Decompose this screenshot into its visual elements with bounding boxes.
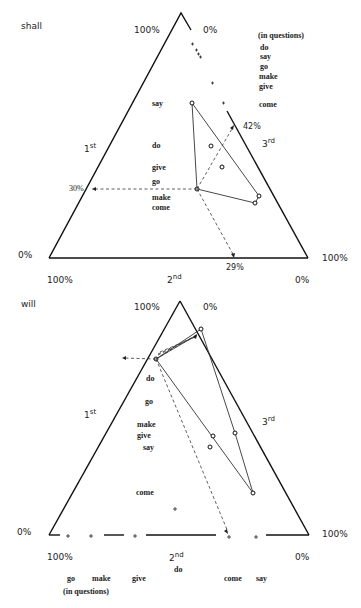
axis-2nd-label: 2nd — [167, 273, 182, 285]
shall-diagram: shall 100% 0% (in questions) do say go m… — [18, 13, 348, 285]
question-word: go — [67, 574, 75, 583]
marker-1st: 30% — [69, 184, 84, 193]
right-0-label: 0% — [295, 552, 310, 562]
axis-3rd-label: 3rd — [262, 137, 275, 149]
question-word: do — [174, 565, 182, 574]
arrow-2nd — [224, 529, 228, 534]
question-word: say — [260, 52, 271, 61]
inside-word: go — [152, 177, 160, 186]
triangle-right-edge — [180, 301, 309, 535]
diagram-title-shall: shall — [21, 21, 42, 31]
inside-word: come — [136, 488, 154, 497]
left-100-label: 100% — [47, 275, 73, 285]
ternary-diagrams: shall 100% 0% (in questions) do say go m… — [0, 0, 361, 608]
question-word: make — [92, 574, 111, 583]
left-100-label: 100% — [47, 552, 73, 562]
marker-3rd: 42% — [243, 122, 261, 131]
arrow-1st — [122, 356, 126, 360]
inside-word: make — [152, 193, 171, 202]
in-questions-header: (in questions) — [258, 31, 304, 40]
question-word: come — [224, 574, 242, 583]
inside-word: say — [143, 443, 154, 452]
axis-1st-label: 1st — [84, 142, 96, 154]
arrow-1st — [92, 187, 96, 191]
will-region-polygon — [156, 329, 253, 493]
question-word: make — [259, 72, 278, 81]
right-0-label: 0% — [295, 275, 310, 285]
question-word: give — [132, 574, 146, 583]
question-word: say — [256, 574, 267, 583]
question-word: give — [259, 82, 273, 91]
triangle-left-edge — [49, 13, 191, 258]
question-word: go — [260, 62, 268, 71]
triangle-left-edge — [49, 301, 180, 535]
inside-word: come — [152, 203, 170, 212]
inside-word: give — [152, 163, 166, 172]
will-diagram: will 100% 0% — [17, 299, 348, 596]
apex-0-label: 0% — [203, 25, 218, 35]
inside-word: make — [137, 420, 156, 429]
axis-1st-label: 1st — [84, 408, 96, 420]
question-word: come — [259, 100, 277, 109]
right-100-label: 100% — [322, 253, 348, 263]
question-word: do — [260, 43, 268, 52]
axis-3rd-label: 3rd — [262, 415, 275, 427]
inside-word: do — [152, 141, 160, 150]
in-questions-label: (in questions) — [63, 587, 109, 596]
apex-100-label: 100% — [134, 302, 160, 312]
inside-word: go — [145, 397, 153, 406]
left-0-label: 0% — [18, 250, 33, 260]
axis-2nd-label: 2nd — [169, 551, 184, 563]
arrow-3rd — [193, 334, 197, 339]
inside-word: say — [152, 99, 163, 108]
apex-0-label: 0% — [203, 302, 218, 312]
diagram-title-will: will — [21, 299, 36, 309]
triangle-right-edge — [227, 111, 308, 258]
inside-word: give — [137, 431, 151, 440]
inside-word: do — [146, 374, 154, 383]
apex-100-label: 100% — [134, 25, 160, 35]
question-markers — [66, 507, 258, 539]
arrow-2nd — [231, 253, 235, 258]
arrow-3rd — [230, 125, 234, 130]
marker-2nd: 29% — [226, 263, 244, 272]
question-markers — [191, 43, 225, 105]
left-0-label: 0% — [17, 527, 32, 537]
right-100-label: 100% — [322, 529, 348, 539]
shall-region-polygon — [192, 103, 259, 203]
